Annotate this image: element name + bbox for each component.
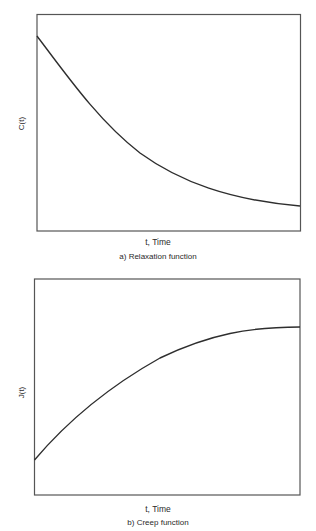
- x-axis-label: t, Time: [0, 237, 316, 247]
- x-axis-label: t, Time: [0, 504, 316, 514]
- relaxation-panel: C(t) t, Time a) Relaxation function: [0, 0, 316, 268]
- plot-frame: [35, 279, 301, 495]
- relaxation-plot: [0, 0, 316, 268]
- creep-curve: [35, 327, 301, 460]
- y-axis-label: C(t): [17, 109, 26, 139]
- creep-panel: J(t) t, Time b) Creep function: [0, 268, 316, 531]
- figure-caption: b) Creep function: [0, 518, 316, 527]
- relaxation-curve: [37, 36, 300, 206]
- figure-caption: a) Relaxation function: [0, 252, 316, 261]
- plot-frame: [37, 15, 301, 232]
- y-axis-label: J(t): [17, 378, 26, 408]
- creep-plot: [0, 268, 316, 531]
